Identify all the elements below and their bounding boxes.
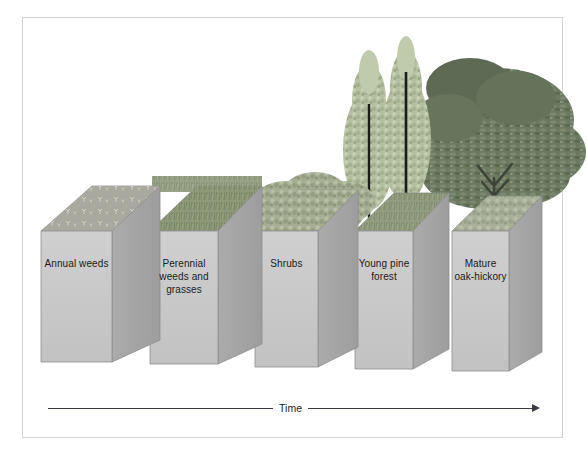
time-axis-label: Time: [273, 402, 308, 414]
stage-block-shrubs: [244, 172, 375, 367]
stage-block-perennial-weeds-grasses: [148, 176, 266, 364]
time-axis-line-left: [48, 408, 273, 409]
succession-figure: Annual weeds Perennial weeds and grasses…: [0, 0, 587, 457]
succession-stage: Annual weeds Perennial weeds and grasses…: [0, 0, 587, 457]
time-axis-line-right: [308, 408, 533, 409]
succession-illustration: [0, 0, 587, 457]
stage-block-annual-weeds: [39, 184, 163, 362]
time-axis: Time: [48, 398, 540, 418]
arrow-right-icon: [532, 404, 540, 412]
